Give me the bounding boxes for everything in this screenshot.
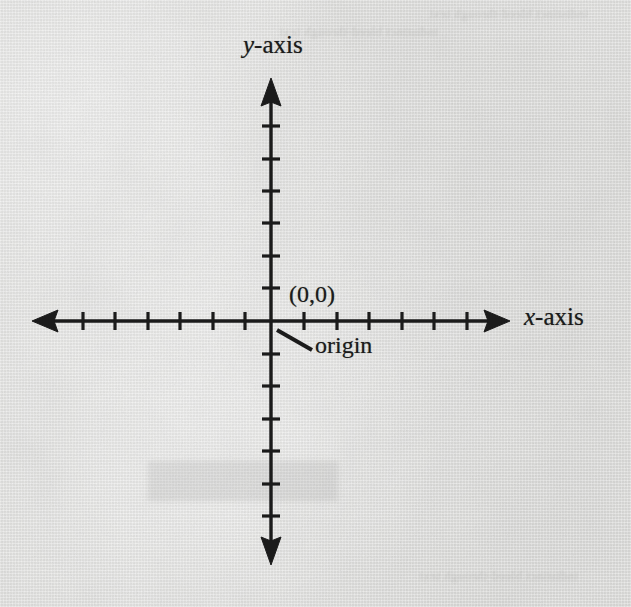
- y-axis-label-suffix: -axis: [254, 31, 303, 58]
- origin-label: origin: [315, 332, 372, 359]
- x-axis-label-variable: x: [524, 303, 535, 330]
- y-axis-label: y-axis: [243, 31, 303, 59]
- x-axis-label-suffix: -axis: [535, 303, 584, 330]
- x-axis-right-arrowhead: [484, 310, 510, 332]
- scanned-page: indistinct bleed-through text indistinct…: [0, 0, 631, 607]
- y-axis-label-variable: y: [243, 31, 254, 58]
- x-axis-left-arrowhead: [32, 310, 58, 332]
- origin-leader-line: [277, 330, 312, 350]
- y-axis-up-arrowhead: [261, 78, 281, 106]
- origin-coordinates-label: (0,0): [289, 281, 335, 308]
- y-axis-down-arrowhead: [261, 537, 281, 565]
- x-axis-label: x-axis: [524, 303, 584, 331]
